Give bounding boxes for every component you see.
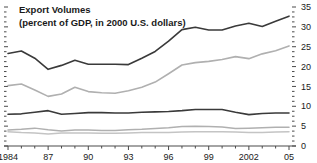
chart-title: Export Volumes: [19, 4, 91, 15]
y-tick-label: 5: [301, 121, 306, 131]
x-tick-label: 87: [43, 152, 53, 162]
x-tick-label: 2002: [239, 152, 259, 162]
data-line-series-5-light-bottom: [8, 132, 289, 134]
data-line-series-4-light-mid: [8, 126, 289, 131]
chart-titles: Export Volumes (percent of GDP, in 2000 …: [19, 4, 186, 28]
y-tick-label: 30: [301, 22, 311, 32]
y-tick-label: 0: [301, 141, 306, 151]
y-tick-label: 15: [301, 82, 311, 92]
y-tick-label: 25: [301, 42, 311, 52]
x-tick-label: 1984: [0, 152, 18, 162]
x-axis-tick-labels: 19848790939699200205: [0, 152, 294, 162]
x-tick-label: 99: [204, 152, 214, 162]
chart-subtitle: (percent of GDP, in 2000 U.S. dollars): [19, 17, 186, 28]
data-line-series-3-dark-lower: [8, 109, 289, 114]
x-tick-label: 96: [164, 152, 174, 162]
data-line-series-2-light-upper: [8, 46, 289, 96]
x-tick-label: 05: [284, 152, 294, 162]
y-tick-label: 20: [301, 62, 311, 72]
export-volumes-chart: Export Volumes (percent of GDP, in 2000 …: [0, 0, 317, 163]
y-axis-tick-labels: 05101520253035: [301, 2, 311, 151]
y-axis-ticks-right: [292, 7, 296, 146]
x-tick-label: 90: [83, 152, 93, 162]
chart-canvas: Export Volumes (percent of GDP, in 2000 …: [0, 0, 317, 163]
x-tick-label: 93: [123, 152, 133, 162]
y-axis-ticks-left: [4, 7, 8, 146]
y-tick-label: 10: [301, 101, 311, 111]
data-series-group: [8, 16, 289, 134]
x-axis-ticks: [8, 146, 289, 150]
y-tick-label: 35: [301, 2, 311, 12]
